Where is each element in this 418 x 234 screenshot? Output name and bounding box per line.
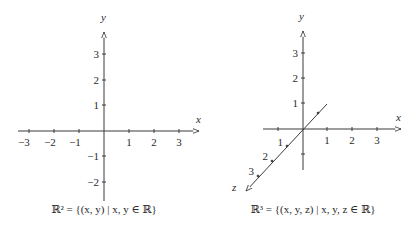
x-tick-label: 2	[151, 136, 157, 148]
plane-2d	[18, 32, 199, 201]
x-tick-label: −2	[44, 136, 56, 148]
y-tick-label: −1	[87, 150, 99, 162]
z-tick-label: 2	[263, 150, 269, 162]
y-axis-label: y	[100, 11, 106, 23]
y-axis-label: y	[298, 10, 304, 22]
x-tick-label: 3	[374, 134, 380, 146]
x-tick-label: −3	[18, 136, 30, 148]
caption-r3: ℝ³ = {(x, y, z) | x, y, z ∈ ℝ}	[251, 203, 376, 216]
y-tick-label: 2	[293, 72, 299, 84]
space-3d-labels: y x z 1 2 3 3 2 1 1 2 3	[231, 10, 401, 193]
z-tick-marks	[257, 112, 319, 177]
y-tick-label: 3	[293, 47, 299, 59]
coordinate-systems-figure: y x −3 −2 −1 1 2 3 3 2 1 −1 −2	[0, 0, 418, 234]
z-tick-label: 3	[249, 165, 255, 177]
y-tick-label: 2	[94, 74, 100, 86]
y-tick-label: 3	[94, 48, 100, 60]
x-tick-label: −1	[69, 136, 81, 148]
x-axis-label: x	[195, 113, 201, 125]
caption-r2: ℝ² = {(x, y) | x, y ∈ ℝ}	[51, 203, 157, 216]
x-tick-label: 2	[349, 134, 355, 146]
y-tick-label: −2	[87, 176, 99, 188]
y-tick-label: 1	[94, 99, 100, 111]
x-tick-label: 3	[176, 136, 182, 148]
x-tick-label: 1	[126, 136, 132, 148]
z-tick-label: 1	[278, 136, 284, 148]
x-axis-label: x	[395, 111, 401, 123]
y-tick-label: 1	[293, 97, 299, 109]
x-tick-label: 1	[324, 134, 330, 146]
z-axis-label: z	[231, 181, 237, 193]
z-axis	[246, 104, 327, 191]
space-3d	[246, 31, 401, 191]
plane-2d-labels: y x −3 −2 −1 1 2 3 3 2 1 −1 −2	[18, 11, 201, 188]
